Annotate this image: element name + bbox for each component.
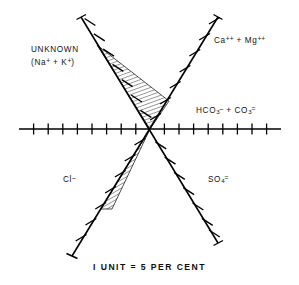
figure-caption: I UNIT = 5 PER CENT — [0, 262, 299, 272]
label-sulfate: SO4= — [208, 174, 228, 184]
label-chloride: Cl– — [63, 174, 76, 184]
star-diagram-figure: UNKNOWN (Na+ + K+) Ca++ + Mg++ HCO3– + C… — [0, 0, 299, 285]
label-unknown-species: (Na+ + K+) — [31, 57, 75, 67]
label-calcium-magnesium: Ca++ + Mg++ — [214, 35, 265, 45]
northeast-southwest-axis — [67, 15, 223, 259]
label-unknown: UNKNOWN — [31, 45, 79, 54]
label-bicarbonate-carbonate: HCO3– + CO3= — [196, 105, 255, 115]
